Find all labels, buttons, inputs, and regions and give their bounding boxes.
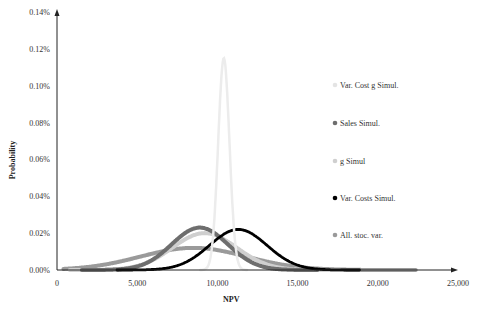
chart: 0.00%0.02%0.04%0.06%0.08%0.10%0.12%0.14%… xyxy=(0,0,478,310)
y-axis-arrow-icon xyxy=(55,9,60,16)
legend-item-label: All. stoc. var. xyxy=(340,231,383,240)
y-tick-label: 0.12% xyxy=(29,45,50,54)
legend-item-label: Sales Simul. xyxy=(340,119,380,128)
y-tick-label: 0.08% xyxy=(29,119,50,128)
x-tick-label: 20,000 xyxy=(367,279,389,288)
y-tick-label: 0.06% xyxy=(29,155,50,164)
y-tick-label: 0.14% xyxy=(29,8,50,17)
x-tick-label: 5,000 xyxy=(128,279,146,288)
x-tick-label: 15,000 xyxy=(287,279,309,288)
legend-marker-icon xyxy=(333,233,338,238)
y-tick-label: 0.10% xyxy=(29,82,50,91)
legend-marker-icon xyxy=(333,83,338,88)
x-axis-label: NPV xyxy=(223,295,240,304)
legend-marker-icon xyxy=(333,159,338,164)
x-tick-labels: 05,00010,00015,00020,00025,000 xyxy=(55,279,469,288)
x-tick-label: 10,000 xyxy=(206,279,228,288)
y-tick-labels: 0.00%0.02%0.04%0.06%0.08%0.10%0.12%0.14% xyxy=(29,8,50,275)
x-tick-label: 0 xyxy=(55,279,59,288)
legend: Var. Cost g Simul.Sales Simul.g SimulVar… xyxy=(333,81,399,240)
x-axis-arrow-icon xyxy=(451,268,458,273)
x-tick-label: 25,000 xyxy=(447,279,469,288)
y-axis-label: Probability xyxy=(8,141,17,180)
legend-item-label: g Simul xyxy=(340,157,366,166)
y-tick-label: 0.00% xyxy=(29,266,50,275)
legend-item-label: Var. Cost g Simul. xyxy=(340,81,398,90)
y-tick-label: 0.02% xyxy=(29,229,50,238)
legend-marker-icon xyxy=(333,121,338,126)
legend-item-label: Var. Costs Simul. xyxy=(340,194,396,203)
legend-marker-icon xyxy=(333,196,338,201)
y-tick-label: 0.04% xyxy=(29,192,50,201)
